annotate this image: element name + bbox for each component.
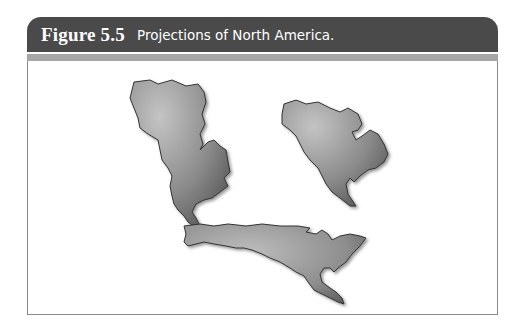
map-projection-3	[184, 224, 366, 304]
maps-layer	[0, 0, 525, 334]
map-projection-2	[282, 100, 388, 206]
map-projection-1	[130, 80, 230, 228]
